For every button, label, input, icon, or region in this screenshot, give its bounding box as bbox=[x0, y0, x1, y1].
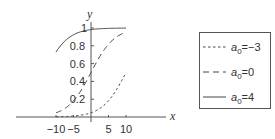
y-tick-label: 0.4 bbox=[70, 75, 85, 87]
x-tick-label: −10 bbox=[47, 123, 66, 135]
y-tick-label: 0.8 bbox=[70, 40, 85, 52]
y-axis-label: y bbox=[86, 7, 93, 21]
axes: −10−5510 0.20.40.60.81 x y bbox=[16, 7, 176, 135]
x-tick-label: 5 bbox=[105, 123, 111, 135]
chart: −10−5510 0.20.40.60.81 x y a0=−3a0=0a0=4 bbox=[0, 0, 275, 139]
x-tick-label: −5 bbox=[67, 123, 80, 135]
y-tick-label: 0.6 bbox=[70, 58, 85, 70]
y-tick-label: 1 bbox=[81, 22, 87, 34]
x-ticks: −10−5510 bbox=[47, 115, 132, 135]
x-axis-label: x bbox=[169, 109, 176, 123]
legend: a0=−3a0=0a0=4 bbox=[200, 33, 271, 109]
x-tick-label: 10 bbox=[120, 123, 132, 135]
y-tick-label: 0.2 bbox=[70, 93, 85, 105]
